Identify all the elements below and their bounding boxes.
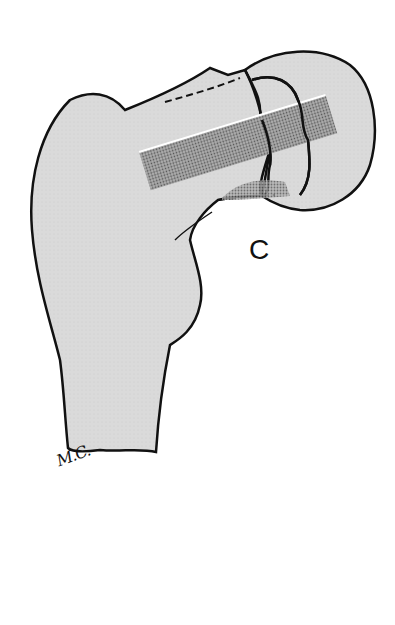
femur-drawing	[0, 0, 395, 625]
femur-illustration: C M.C.	[0, 0, 395, 625]
panel-label: C	[249, 236, 269, 264]
